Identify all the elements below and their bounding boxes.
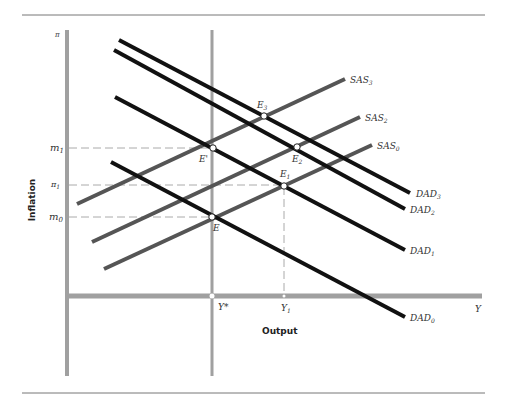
y1-crossing-gap — [283, 295, 286, 298]
label-e: E — [212, 223, 220, 233]
tick-y-star: Y* — [218, 302, 229, 312]
y-axis-title: Inflation — [27, 179, 37, 221]
label-sas2: SAS2 — [365, 113, 388, 124]
label-e3: E3 — [256, 100, 268, 111]
label-dad3: DAD3 — [415, 189, 441, 200]
tick-m0: m0 — [49, 211, 63, 224]
label-sas3: SAS3 — [350, 75, 373, 86]
label-dad0: DAD0 — [409, 313, 435, 324]
label-sas0: SAS0 — [377, 141, 400, 152]
point-e2 — [294, 144, 300, 150]
label-dad1: DAD1 — [409, 246, 435, 257]
point-e1 — [281, 183, 287, 189]
label-e2: E2 — [291, 154, 303, 165]
point-e — [209, 214, 215, 220]
dad-sas-diagram: π Inflation m1 π1 m0 Y* Y1 Y Output SAS3… — [0, 0, 505, 399]
y-axis-symbol: π — [54, 31, 60, 39]
tick-y1: Y1 — [281, 303, 291, 314]
x-axis-symbol: Y — [475, 304, 482, 314]
label-e1: E1 — [279, 169, 290, 180]
point-e3 — [261, 113, 267, 119]
point-e-prime — [210, 145, 216, 151]
tick-pi1: π1 — [50, 180, 60, 190]
label-dad2: DAD2 — [409, 205, 435, 216]
axis-crossing-gap — [210, 294, 215, 299]
tick-m1: m1 — [50, 142, 64, 155]
x-axis-title: Output — [262, 326, 298, 336]
label-e-prime: E' — [198, 154, 208, 164]
